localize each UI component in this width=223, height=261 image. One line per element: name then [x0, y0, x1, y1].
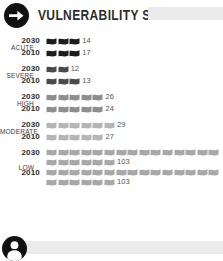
row-value: 26 [104, 92, 114, 102]
flag-unit-icon [150, 168, 161, 177]
footer-placeholder-bar [22, 241, 223, 254]
row-value: 24 [104, 104, 114, 114]
flag-unit-icon [58, 105, 69, 114]
flag-unit-icon [81, 158, 92, 167]
flag-unit-icon [139, 168, 150, 177]
flag-unit-icon [58, 93, 69, 102]
icon-units: 24 [46, 104, 223, 114]
row-value: 17 [81, 48, 91, 58]
flag-unit-icon [46, 49, 57, 58]
flag-unit-icon [92, 93, 103, 102]
header: VULNERABILITY SHIFT [0, 0, 223, 30]
flag-unit-icon [58, 158, 69, 167]
flag-unit-icon [185, 168, 196, 177]
severity-label: LOW [0, 164, 40, 171]
person-circle-icon [2, 236, 27, 261]
flag-unit-icon [46, 37, 57, 46]
chart-group-acute: 203014201017ACUTE [0, 36, 223, 59]
flag-unit-icon [58, 133, 69, 142]
flag-unit-icon [81, 121, 92, 130]
flag-unit-icon [116, 148, 127, 157]
icon-units: 13 [46, 76, 223, 86]
flag-unit-icon [58, 65, 69, 74]
chart-group-severe: 203012201013SEVERE [0, 64, 223, 87]
flag-unit-icon [104, 178, 115, 187]
flag-unit-icon [46, 93, 57, 102]
severity-label: MODERATE [0, 128, 40, 135]
icon-units: 12 [46, 64, 223, 74]
flag-unit-icon [69, 168, 80, 177]
flag-unit-icon [81, 148, 92, 157]
flag-unit-icon [46, 133, 57, 142]
flag-unit-icon [46, 148, 57, 157]
icon-units: 103 [46, 148, 223, 167]
flag-unit-icon [197, 168, 208, 177]
flag-unit-icon [162, 168, 173, 177]
flag-unit-icon [69, 77, 80, 86]
flag-unit-icon [127, 148, 138, 157]
flag-unit-icon [69, 133, 80, 142]
flag-unit-icon [92, 168, 103, 177]
severity-label: HIGH [0, 100, 40, 107]
flag-unit-icon [104, 121, 115, 130]
flag-unit-icon [69, 148, 80, 157]
icon-units: 14 [46, 36, 223, 46]
flag-unit-icon [81, 105, 92, 114]
severity-label: ACUTE [0, 44, 40, 51]
icon-units: 29 [46, 120, 223, 130]
flag-unit-icon [139, 148, 150, 157]
flag-unit-icon [46, 168, 57, 177]
chart-group-high: 203026201024HIGH [0, 92, 223, 115]
flag-unit-icon [104, 148, 115, 157]
icon-units: 17 [46, 48, 223, 58]
flag-unit-icon [58, 168, 69, 177]
flag-unit-icon [92, 158, 103, 167]
flag-unit-icon [58, 49, 69, 58]
flag-unit-icon [92, 121, 103, 130]
flag-unit-icon [197, 148, 208, 157]
chart-row: 2010103 [0, 168, 223, 187]
row-value: 13 [81, 76, 91, 86]
flag-unit-icon [69, 178, 80, 187]
flag-unit-icon [116, 168, 127, 177]
flag-unit-icon [69, 93, 80, 102]
flag-unit-icon [58, 37, 69, 46]
flag-unit-icon [162, 148, 173, 157]
flag-unit-icon [104, 158, 115, 167]
flag-unit-icon [174, 148, 185, 157]
flag-unit-icon [150, 148, 161, 157]
flag-unit-icon [46, 178, 57, 187]
flag-unit-icon [69, 49, 80, 58]
row-value: 14 [81, 36, 91, 46]
flag-unit-icon [58, 121, 69, 130]
icon-units: 26 [46, 92, 223, 102]
flag-unit-icon [46, 65, 57, 74]
flag-unit-icon [69, 121, 80, 130]
vulnerability-chart: 203014201017ACUTE203012201013SEVERE20302… [0, 30, 223, 187]
flag-unit-icon [69, 37, 80, 46]
icon-units: 103 [46, 168, 223, 187]
header-placeholder-bar [148, 7, 223, 20]
row-value: 103 [116, 157, 130, 167]
flag-unit-icon [46, 121, 57, 130]
severity-label: SEVERE [0, 72, 40, 79]
footer [0, 233, 223, 259]
flag-unit-icon [58, 77, 69, 86]
flag-unit-icon [69, 158, 80, 167]
flag-unit-icon [127, 168, 138, 177]
flag-unit-icon [46, 158, 57, 167]
icon-units: 27 [46, 132, 223, 142]
flag-unit-icon [46, 105, 57, 114]
flag-unit-icon [92, 133, 103, 142]
flag-unit-icon [104, 168, 115, 177]
row-value: 29 [116, 120, 126, 130]
row-value: 103 [116, 177, 130, 187]
flag-unit-icon [92, 178, 103, 187]
flag-unit-icon [69, 105, 80, 114]
flag-unit-icon [81, 93, 92, 102]
flag-unit-icon [46, 77, 57, 86]
flag-unit-icon [185, 148, 196, 157]
row-value: 12 [69, 64, 79, 74]
flag-unit-icon [174, 168, 185, 177]
arrow-right-circle-icon [4, 3, 29, 28]
